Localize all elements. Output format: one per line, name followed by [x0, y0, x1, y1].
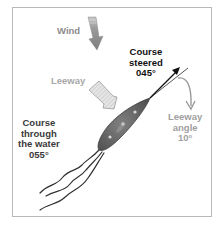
leeway-arrow-icon: [89, 81, 117, 109]
leeway-angle-arrow-icon: [178, 78, 195, 109]
wind-arrow-icon: [88, 17, 103, 50]
course-water-line-3: the water: [18, 139, 60, 150]
leeway-label: Leeway: [51, 76, 85, 87]
leeway-angle-line-1: Leeway: [168, 112, 202, 123]
course-water-value: 055°: [18, 150, 60, 161]
course-steered-value: 045°: [129, 68, 163, 79]
leeway-angle-value: 10°: [168, 133, 202, 144]
course-through-water-label: Course through the water 055°: [18, 118, 60, 160]
wind-label: Wind: [57, 26, 80, 37]
leeway-angle-label: Leeway angle 10°: [168, 112, 202, 144]
course-steered-line-1: Course: [129, 47, 163, 58]
course-water-line-1: Course: [18, 118, 60, 129]
course-steered-label: Course steered 045°: [129, 47, 163, 79]
